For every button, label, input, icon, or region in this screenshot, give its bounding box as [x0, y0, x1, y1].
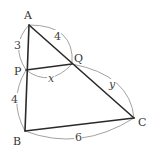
vertex-label-A: A: [23, 9, 33, 22]
length-label-PB: 4: [11, 93, 18, 106]
length-label-AQ: 4: [54, 30, 61, 43]
length-label-PQ: x: [48, 72, 55, 85]
length-label-QC: y: [108, 78, 116, 91]
vertex-label-Q: Q: [74, 52, 83, 65]
edge-PQ: [26, 64, 72, 70]
vertex-label-C: C: [138, 116, 146, 129]
vertex-label-P: P: [14, 65, 22, 78]
length-label-AP: 3: [14, 39, 21, 52]
vertex-label-B: B: [13, 135, 21, 148]
edge-BC: [25, 118, 134, 131]
edge-AB: [25, 25, 29, 131]
edge-AC: [29, 25, 134, 118]
triangle-diagram: A P Q B C 3 4 4 x y 6: [0, 0, 150, 148]
length-label-BC: 6: [75, 131, 82, 144]
